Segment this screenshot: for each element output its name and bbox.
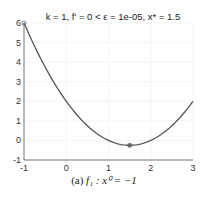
svg-text:-1: -1 — [13, 155, 21, 165]
svg-text:1: 1 — [106, 163, 111, 173]
grid-lines — [24, 23, 193, 160]
svg-text:4: 4 — [16, 57, 21, 67]
svg-text:6: 6 — [16, 18, 21, 28]
svg-text:1: 1 — [16, 116, 21, 126]
caption-prefix: (a) — [71, 174, 83, 186]
svg-text:2: 2 — [16, 96, 21, 106]
figure-caption: (a) f₁ : x⁰ = −1 — [0, 174, 208, 187]
svg-text:3: 3 — [16, 77, 21, 87]
svg-text:-1: -1 — [20, 163, 28, 173]
svg-text:0: 0 — [64, 163, 69, 173]
point-markers — [22, 21, 132, 147]
svg-text:5: 5 — [16, 38, 21, 48]
svg-text:0: 0 — [16, 135, 21, 145]
marker-x* — [128, 143, 132, 147]
svg-text:3: 3 — [190, 163, 195, 173]
tick-labels: -10123-10123456 — [13, 18, 196, 173]
caption-text: f₁ : x⁰ = −1 — [86, 174, 137, 186]
svg-text:2: 2 — [148, 163, 153, 173]
